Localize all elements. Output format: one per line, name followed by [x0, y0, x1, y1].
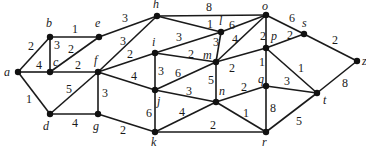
weighted-graph-diagram: 2411322543324328132363642634252126211385…	[0, 0, 366, 148]
node-label-s: s	[302, 16, 307, 30]
edge-weight-d-f: 5	[66, 82, 72, 96]
node-l	[218, 29, 224, 35]
node-g	[95, 111, 101, 117]
node-d	[47, 111, 53, 117]
edge-t-z	[317, 61, 357, 93]
edge-weight-p-s: 2	[287, 28, 293, 42]
edge-weight-b-c: 3	[54, 38, 60, 52]
edge-weight-p-t: 1	[298, 61, 304, 75]
node-label-f: f	[94, 53, 99, 67]
edge-weight-f-h: 3	[120, 34, 126, 48]
edge-weight-n-q: 2	[241, 80, 247, 94]
edge-weight-j-m: 6	[175, 66, 181, 80]
node-n	[213, 99, 219, 105]
edge-weight-l-o: 6	[229, 18, 235, 32]
edge-weight-i-l: 3	[176, 30, 182, 44]
node-label-g: g	[93, 119, 99, 133]
node-a	[15, 69, 21, 75]
edge-weight-b-e: 1	[72, 22, 78, 36]
edge-weight-f-i: 2	[127, 47, 133, 61]
node-p	[263, 45, 269, 51]
node-label-b: b	[46, 16, 52, 30]
node-label-m: m	[203, 48, 212, 62]
node-label-z: z	[361, 54, 366, 68]
node-label-q: q	[258, 72, 264, 86]
edge-h-o	[157, 15, 266, 16]
edge-weight-k-r: 2	[210, 118, 216, 132]
node-label-k: k	[151, 135, 157, 148]
node-c	[47, 69, 53, 75]
edge-weight-h-o: 8	[206, 0, 212, 14]
edge-a-b	[18, 37, 50, 72]
node-label-r: r	[262, 135, 267, 148]
edge-weight-n-r: 1	[243, 106, 249, 120]
edge-weight-e-h: 3	[122, 11, 128, 25]
edge-weight-k-n: 4	[179, 105, 185, 119]
node-label-d: d	[43, 119, 50, 133]
node-label-p: p	[270, 29, 277, 43]
node-label-h: h	[153, 0, 159, 11]
edge-weight-p-q: 1	[259, 55, 265, 69]
node-i	[152, 50, 158, 56]
edge-weight-d-g: 4	[72, 116, 78, 130]
node-e	[96, 34, 102, 40]
node-f	[95, 69, 101, 75]
edge-weight-c-f: 2	[75, 58, 81, 72]
edge-weight-o-s: 6	[289, 11, 295, 25]
edge-weight-s-z: 2	[332, 33, 338, 47]
node-label-n: n	[219, 84, 225, 98]
node-label-c: c	[53, 55, 59, 69]
edge-weight-t-z: 8	[342, 76, 348, 90]
edge-weight-o-p: 2	[260, 29, 266, 43]
edge-weight-j-k: 6	[146, 106, 152, 120]
node-t	[314, 90, 320, 96]
edge-weight-i-m: 2	[188, 47, 194, 61]
node-label-e: e	[95, 16, 101, 30]
node-label-t: t	[323, 93, 327, 107]
edge-weight-c-e: 2	[68, 42, 74, 56]
edge-weight-a-b: 2	[28, 39, 34, 53]
edge-weight-h-l: 1	[207, 17, 213, 31]
edge-weight-m-p: 2	[229, 61, 235, 75]
edge-weight-i-j: 3	[158, 64, 164, 78]
edge-s-z	[304, 34, 357, 61]
edge-e-h	[99, 16, 157, 37]
edge-weight-q-r: 8	[270, 101, 276, 115]
edge-weight-a-c: 4	[36, 58, 42, 72]
edge-weight-a-d: 1	[26, 92, 32, 106]
node-s	[301, 31, 307, 37]
edge-d-f	[50, 72, 98, 114]
edge-weight-q-t: 3	[284, 74, 290, 88]
node-z	[354, 58, 360, 64]
node-label-i: i	[152, 35, 155, 49]
node-label-o: o	[262, 0, 268, 13]
edge-weight-r-t: 5	[296, 114, 302, 128]
node-label-j: j	[155, 94, 161, 108]
edge-weight-l-m: 3	[213, 35, 219, 49]
edge-weight-m-n: 5	[208, 73, 214, 87]
node-j	[152, 87, 158, 93]
node-label-a: a	[4, 65, 10, 79]
edge-weight-j-n: 3	[186, 84, 192, 98]
edge-weight-f-j: 4	[131, 69, 137, 83]
edge-n-r	[216, 102, 266, 132]
edge-weight-f-g: 3	[102, 86, 108, 100]
edge-weight-g-k: 2	[120, 123, 126, 137]
node-m	[213, 59, 219, 65]
node-h	[154, 13, 160, 19]
edge-weight-m-o: 4	[232, 32, 238, 46]
edge-k-n	[155, 102, 216, 132]
edge-a-d	[18, 72, 50, 114]
node-b	[47, 34, 53, 40]
